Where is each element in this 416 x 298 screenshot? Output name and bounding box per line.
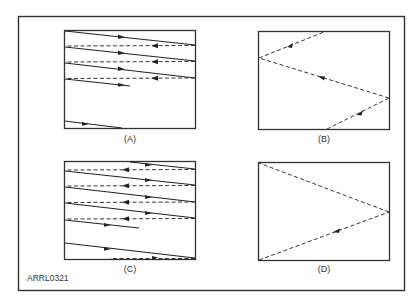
figure-id-label: ARRL0321 [27, 273, 69, 283]
panel-d-label: (D) [318, 264, 331, 274]
panel-d-frame [259, 163, 390, 261]
panel-c-label: (C) [124, 264, 137, 274]
panel-b: (B) [259, 32, 390, 145]
panel-a: (A) [65, 31, 196, 145]
panel-a-label: (A) [124, 134, 136, 144]
panel-b-label: (B) [318, 134, 330, 144]
panel-a-frame [65, 31, 196, 129]
panel-c: (C) [65, 162, 196, 275]
panel-d: (D) [259, 163, 390, 275]
figure-canvas: (A) (B) [0, 0, 416, 298]
